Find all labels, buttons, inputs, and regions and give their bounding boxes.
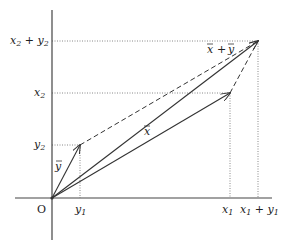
y-tick-x2: x2	[34, 86, 45, 100]
svg-text:y: y	[54, 160, 62, 173]
x-tick-x1-plus-y1: x1 + y1	[240, 203, 279, 217]
vector-y-label: y	[54, 160, 62, 173]
y-tick-x2-plus-y2: x2 + y2	[10, 34, 49, 48]
origin-label: O	[37, 203, 46, 216]
vector-diagram: x y x + y O y1 x1 x1 + y1 y2 x2 x2 + y2	[0, 0, 288, 248]
y-tick-y2: y2	[33, 138, 45, 152]
vector-x-label: x	[144, 125, 151, 138]
origin-dot	[50, 196, 53, 199]
vector-sum-arrow	[52, 41, 258, 198]
vector-sum-label: x + y	[207, 43, 235, 56]
svg-text:+: +	[217, 43, 226, 56]
vector-x-arrow	[52, 93, 230, 198]
svg-text:y: y	[227, 43, 235, 56]
svg-text:x: x	[207, 43, 214, 56]
x-tick-x1: x1	[222, 203, 233, 217]
x-tick-y1: y1	[74, 203, 86, 217]
svg-text:x: x	[144, 125, 151, 138]
vectors	[52, 41, 258, 198]
